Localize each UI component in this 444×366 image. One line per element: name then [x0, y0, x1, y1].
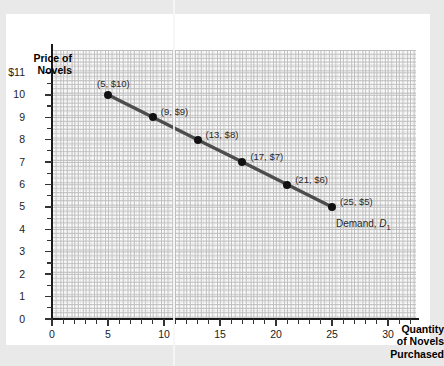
x-tick-label: 0 [32, 329, 72, 340]
y-tick-major [45, 251, 52, 252]
y-tick-minor [47, 150, 52, 151]
chart-card: 012345678910$11 051015202530 Price of No… [6, 14, 430, 345]
y-tick-label: 4 [0, 224, 25, 235]
x-tick-major [219, 319, 220, 326]
x-tick-minor [264, 319, 265, 324]
data-point [104, 91, 112, 99]
y-tick-label: 10 [0, 89, 25, 100]
y-tick-minor [47, 262, 52, 263]
x-tick-minor [152, 319, 153, 324]
x-tick-minor [96, 319, 97, 324]
x-tick-major [107, 319, 108, 326]
x-tick-minor [343, 319, 344, 324]
y-tick-minor [47, 307, 52, 308]
y-tick-minor [47, 285, 52, 286]
x-tick-minor [309, 319, 310, 324]
data-point-label: (13, $8) [206, 130, 239, 140]
page-seam [173, 0, 175, 366]
y-tick-major [45, 139, 52, 140]
x-tick-minor [231, 319, 232, 324]
x-tick-label: 5 [88, 329, 128, 340]
data-point-label: (17, $7) [250, 152, 283, 162]
x-tick-major [51, 319, 52, 326]
series-label: Demand, D1 [336, 219, 391, 232]
x-tick-major [275, 319, 276, 326]
y-tick-minor [47, 218, 52, 219]
y-tick-major [45, 117, 52, 118]
y-tick-major [45, 296, 52, 297]
y-tick-label: 2 [0, 269, 25, 280]
y-tick-label: 1 [0, 291, 25, 302]
y-tick-label: 7 [0, 157, 25, 168]
x-tick-minor [74, 319, 75, 324]
data-point [328, 203, 336, 211]
x-tick-minor [141, 319, 142, 324]
x-tick-minor [298, 319, 299, 324]
x-tick-label: 10 [144, 329, 184, 340]
y-tick-label: 8 [0, 134, 25, 145]
y-tick-label: 3 [0, 246, 25, 257]
y-tick-minor [47, 105, 52, 106]
y-axis-title: Price of Novels [8, 52, 72, 77]
y-tick-minor [47, 128, 52, 129]
y-tick-minor [47, 195, 52, 196]
x-axis-line [51, 318, 419, 320]
x-tick-minor [197, 319, 198, 324]
x-tick-major [163, 319, 164, 326]
x-tick-label: 15 [200, 329, 240, 340]
x-tick-minor [320, 319, 321, 324]
y-tick-major [45, 94, 52, 95]
plot-area [52, 50, 416, 319]
x-tick-minor [130, 319, 131, 324]
data-point-label: (25, $5) [340, 197, 373, 207]
y-tick-label: 9 [0, 112, 25, 123]
x-tick-label: 20 [256, 329, 296, 340]
x-tick-minor [354, 319, 355, 324]
y-tick-major [45, 273, 52, 274]
y-tick-major [45, 206, 52, 207]
x-axis-title: Quantity of Novels Purchased [366, 323, 444, 360]
x-tick-minor [242, 319, 243, 324]
y-tick-major [45, 161, 52, 162]
x-tick-major [331, 319, 332, 326]
x-tick-minor [186, 319, 187, 324]
x-tick-minor [63, 319, 64, 324]
y-tick-major [45, 229, 52, 230]
data-point [194, 136, 202, 144]
x-tick-minor [253, 319, 254, 324]
x-tick-minor [287, 319, 288, 324]
x-tick-label: 25 [312, 329, 352, 340]
data-point-label: (21, $6) [295, 175, 328, 185]
y-tick-label: 5 [0, 201, 25, 212]
data-point [283, 181, 291, 189]
y-tick-minor [47, 173, 52, 174]
y-tick-label: 0 [0, 314, 25, 325]
series-label-text: Demand, [336, 218, 379, 229]
y-tick-minor [47, 240, 52, 241]
x-tick-minor [208, 319, 209, 324]
x-tick-minor [119, 319, 120, 324]
x-tick-minor [85, 319, 86, 324]
series-label-symbol: D [379, 218, 386, 229]
y-tick-minor [47, 83, 52, 84]
data-point-label: (5, $10) [97, 79, 130, 89]
y-tick-label: 6 [0, 179, 25, 190]
y-tick-major [45, 184, 52, 185]
series-label-subscript: 1 [387, 223, 391, 232]
